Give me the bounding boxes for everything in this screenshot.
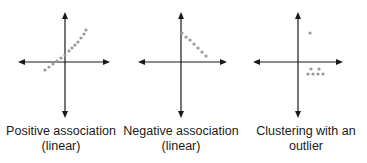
data-point <box>317 67 320 70</box>
caption-negative-association: Negative association (linear) <box>114 124 248 154</box>
arrow-left-icon <box>18 59 25 65</box>
arrow-up-icon <box>62 12 68 19</box>
data-point <box>316 72 319 75</box>
arrow-up-icon <box>295 12 301 19</box>
data-point <box>67 49 70 52</box>
data-point <box>188 38 191 41</box>
data-point <box>59 56 62 59</box>
data-point <box>84 28 87 31</box>
caption-line-1: Clustering with an <box>239 124 367 139</box>
arrow-down-icon <box>295 111 301 118</box>
data-point <box>70 46 73 49</box>
caption-line-2: (linear) <box>0 139 128 154</box>
caption-clustering-outlier: Clustering with an outlier <box>239 124 367 154</box>
arrow-right-icon <box>336 59 343 65</box>
data-point <box>73 43 76 46</box>
data-point <box>51 62 54 65</box>
scatter-plot-negative <box>120 0 242 122</box>
caption-line-2: (linear) <box>114 139 248 154</box>
data-point <box>184 35 187 38</box>
arrow-down-icon <box>178 111 184 118</box>
arrow-up-icon <box>178 12 184 19</box>
data-point <box>196 46 199 49</box>
data-point <box>192 42 195 45</box>
data-point <box>63 53 66 56</box>
data-point <box>311 72 314 75</box>
caption-line-1: Positive association <box>0 124 128 139</box>
data-point <box>309 67 312 70</box>
scatter-plot-positive <box>0 0 122 122</box>
arrow-right-icon <box>220 59 227 65</box>
data-point <box>47 65 50 68</box>
data-point <box>76 40 79 43</box>
data-point <box>82 32 85 35</box>
arrow-down-icon <box>62 111 68 118</box>
data-point <box>321 72 324 75</box>
data-point <box>204 54 207 57</box>
data-point <box>180 31 183 34</box>
data-point <box>200 50 203 53</box>
caption-line-1: Negative association <box>114 124 248 139</box>
data-point <box>79 36 82 39</box>
data-point <box>43 68 46 71</box>
panel-negative-association: Negative association (linear) <box>120 0 242 163</box>
arrow-left-icon <box>138 59 145 65</box>
arrow-right-icon <box>103 59 110 65</box>
data-point <box>55 59 58 62</box>
caption-positive-association: Positive association (linear) <box>0 124 128 154</box>
scatter-plot-cluster <box>245 0 367 122</box>
panel-clustering-outlier: Clustering with an outlier <box>245 0 367 163</box>
data-point <box>308 31 311 34</box>
panel-positive-association: Positive association (linear) <box>0 0 122 163</box>
caption-line-2: outlier <box>239 139 367 154</box>
data-point <box>306 72 309 75</box>
arrow-left-icon <box>253 59 260 65</box>
